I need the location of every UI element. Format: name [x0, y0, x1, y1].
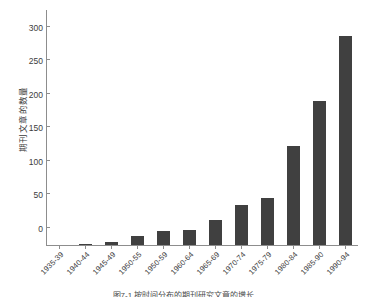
bar — [339, 36, 352, 245]
bar-slot — [151, 10, 177, 245]
x-axis-tick: 1935-39 — [46, 246, 72, 250]
x-axis-tick: 1940-44 — [72, 246, 98, 250]
x-axis-tick: 1950-59 — [150, 246, 176, 250]
bar — [105, 242, 118, 245]
plot-area: 050100150200250300350 — [46, 10, 358, 246]
bar-slot — [47, 10, 73, 245]
x-axis-tick-mark — [59, 246, 60, 249]
bar-slot — [254, 10, 280, 245]
x-axis-tick-label: 1970-74 — [221, 250, 248, 277]
bar-slot — [125, 10, 151, 245]
x-axis-tick-mark — [85, 246, 86, 249]
y-axis-tick: 0 — [38, 218, 47, 236]
x-axis-tick-label: 1985-90 — [299, 250, 326, 277]
bar — [313, 101, 326, 245]
y-axis-tick: 100 — [29, 151, 47, 169]
x-axis-tick-label: 1950-59 — [143, 250, 170, 277]
x-axis-tick-label: 1935-39 — [39, 250, 66, 277]
x-axis-tick: 1985-90 — [306, 246, 332, 250]
x-axis-tick-label: 1975-79 — [247, 250, 274, 277]
y-axis-tick: 300 — [29, 17, 47, 35]
bar-slot — [306, 10, 332, 245]
x-axis-tick-mark — [345, 246, 346, 249]
bar — [287, 146, 300, 245]
bar — [183, 230, 196, 245]
x-axis-tick: 1970-74 — [228, 246, 254, 250]
bar — [79, 244, 92, 245]
x-axis-tick-label: 1950-55 — [117, 250, 144, 277]
x-axis-tick: 1960-64 — [176, 246, 202, 250]
x-axis-tick: 1990-94 — [332, 246, 358, 250]
bar — [157, 231, 170, 245]
x-axis-tick-mark — [111, 246, 112, 249]
y-axis-tick: 250 — [29, 50, 47, 68]
figure-caption: 图7-1 按时间分布的期刊研究文章的增长 — [0, 289, 367, 297]
y-axis-tick-label: 100 — [29, 157, 47, 167]
x-axis-tick: 1980-84 — [280, 246, 306, 250]
x-axis-tick-label: 1980-84 — [273, 250, 300, 277]
bar — [209, 220, 222, 246]
x-axis-tick-mark — [319, 246, 320, 249]
bar — [131, 236, 144, 245]
x-axis-tick-mark — [267, 246, 268, 249]
x-axis-tick: 1965-69 — [202, 246, 228, 250]
x-axis-tick-label: 1960-64 — [169, 250, 196, 277]
bar-slot — [280, 10, 306, 245]
bar — [261, 198, 274, 245]
bar-slot — [99, 10, 125, 245]
y-axis-tick: 350 — [29, 0, 47, 1]
x-axis-tick-mark — [241, 246, 242, 249]
x-axis-tick-mark — [137, 246, 138, 249]
x-axis-tick-mark — [189, 246, 190, 249]
bar-slot — [332, 10, 358, 245]
x-axis-tick-label: 1940-44 — [65, 250, 92, 277]
x-axis-tick: 1945-49 — [98, 246, 124, 250]
x-axis-tick-mark — [215, 246, 216, 249]
y-axis-tick-label: 50 — [34, 190, 47, 200]
bar-slot — [73, 10, 99, 245]
y-axis-tick-label: 250 — [29, 56, 47, 66]
y-axis-tick-label: 300 — [29, 23, 47, 33]
bar-slot — [203, 10, 229, 245]
y-axis-title: 期刊文章的数量 — [16, 44, 28, 194]
x-axis-tick-label: 1945-49 — [91, 250, 118, 277]
bar-slot — [228, 10, 254, 245]
y-axis-tick-label: 150 — [29, 123, 47, 133]
bar-chart-figure: 期刊文章的数量 050100150200250300350 1935-39194… — [0, 0, 367, 297]
x-axis-tick-mark — [293, 246, 294, 249]
bar-series — [47, 10, 358, 245]
x-axis-tick-mark — [163, 246, 164, 249]
x-axis-tick: 1950-55 — [124, 246, 150, 250]
bar-slot — [177, 10, 203, 245]
y-axis-tick: 200 — [29, 84, 47, 102]
bar — [235, 205, 248, 245]
y-axis-tick: 150 — [29, 117, 47, 135]
y-axis-tick-label: 0 — [38, 224, 47, 234]
x-axis-ticks: 1935-391940-441945-491950-551950-591960-… — [46, 246, 358, 250]
y-axis-tick-label: 200 — [29, 90, 47, 100]
x-axis-tick-label: 1965-69 — [195, 250, 222, 277]
x-axis-tick: 1975-79 — [254, 246, 280, 250]
y-axis-tick: 50 — [34, 184, 47, 202]
x-axis-tick-label: 1990-94 — [325, 250, 352, 277]
